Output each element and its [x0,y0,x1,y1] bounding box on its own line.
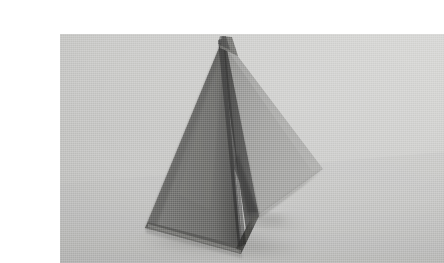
photograph-figure [60,34,444,263]
photo-image [60,34,444,263]
